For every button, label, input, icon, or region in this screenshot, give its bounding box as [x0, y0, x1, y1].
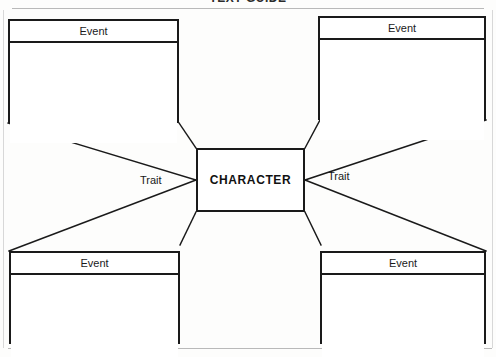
- trait-label-right: Trait: [328, 170, 350, 182]
- event-header-label: Event: [388, 22, 416, 34]
- bevel-bottom-left: [180, 212, 196, 245]
- event-body-bottom-left[interactable]: [11, 275, 178, 357]
- event-body-bottom-right[interactable]: [322, 275, 484, 357]
- character-box[interactable]: CHARACTER: [196, 148, 305, 212]
- event-header-label: Event: [389, 257, 417, 269]
- event-box-bottom-left[interactable]: Event: [9, 251, 180, 344]
- event-header: Event: [11, 253, 178, 275]
- bevel-top-left: [179, 123, 196, 148]
- connector-left-lower: [9, 180, 196, 251]
- event-header: Event: [322, 253, 484, 275]
- event-box-top-left[interactable]: Event: [8, 19, 179, 123]
- event-body-top-left[interactable]: [10, 43, 177, 143]
- event-box-bottom-right[interactable]: Event: [320, 251, 486, 344]
- character-label: CHARACTER: [210, 173, 291, 187]
- event-header-label: Event: [80, 257, 108, 269]
- worksheet-page: TEXT GUIDE Event Event: [0, 0, 496, 357]
- event-header-label: Event: [79, 25, 107, 37]
- event-box-top-right[interactable]: Event: [318, 16, 486, 120]
- connector-right-lower: [305, 180, 486, 251]
- bevel-top-right: [305, 120, 320, 148]
- event-header: Event: [320, 18, 484, 40]
- event-header: Event: [10, 21, 177, 43]
- bevel-bottom-right: [305, 212, 321, 245]
- event-body-top-right[interactable]: [320, 40, 484, 140]
- trait-label-left: Trait: [140, 174, 162, 186]
